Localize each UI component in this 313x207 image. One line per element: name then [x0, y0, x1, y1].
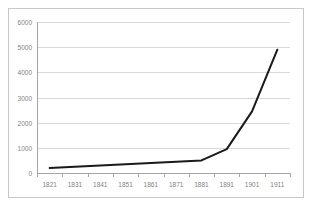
- y-tick-label: 4000: [18, 69, 33, 76]
- x-tick-label: 1891: [220, 181, 235, 188]
- y-tick-label: 5000: [18, 44, 33, 51]
- y-tick-label: 3000: [18, 95, 33, 102]
- chart-frame: 0100020003000400050006000182118311841185…: [8, 8, 304, 198]
- x-tick-label: 1871: [169, 181, 184, 188]
- x-tick-label: 1821: [42, 181, 57, 188]
- plot-area: 0100020003000400050006000182118311841185…: [9, 9, 305, 199]
- line-chart: 0100020003000400050006000182118311841185…: [9, 9, 305, 199]
- x-tick-label: 1841: [93, 181, 108, 188]
- y-tick-label: 0: [28, 170, 32, 177]
- y-tick-label: 1000: [18, 145, 33, 152]
- y-tick-label: 6000: [18, 19, 33, 26]
- x-tick-label: 1831: [68, 181, 83, 188]
- data-series-line: [50, 50, 278, 168]
- x-tick-label: 1901: [245, 181, 260, 188]
- x-tick-label: 1861: [144, 181, 159, 188]
- x-tick-label: 1851: [118, 181, 133, 188]
- x-tick-label: 1881: [194, 181, 209, 188]
- y-tick-label: 2000: [18, 120, 33, 127]
- x-tick-label: 1911: [270, 181, 284, 188]
